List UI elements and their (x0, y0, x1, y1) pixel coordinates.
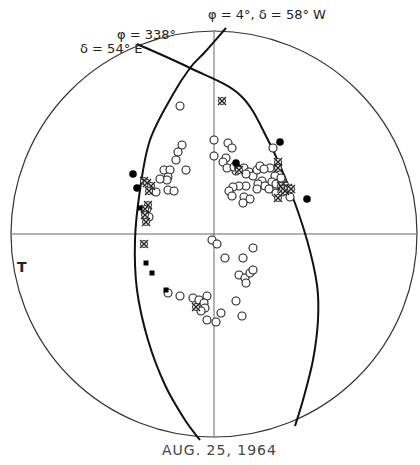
crossed-circle-marker (274, 164, 282, 172)
filled-circle-marker (129, 170, 137, 178)
stereonet-diagram (0, 0, 420, 465)
open-circle-marker (249, 266, 257, 274)
open-circle-marker (239, 254, 247, 262)
open-circle-marker (232, 297, 240, 305)
crossed-circle-marker (235, 166, 243, 174)
open-circle-marker (277, 174, 285, 182)
open-circle-marker (176, 102, 184, 110)
open-circle-marker (228, 144, 236, 152)
open-circle-marker (174, 148, 182, 156)
open-circle-marker (265, 185, 273, 193)
open-circle-marker (260, 165, 268, 173)
open-circle-marker (176, 292, 184, 300)
filled-square-marker (164, 288, 169, 293)
date-caption: AUG. 25, 1964 (162, 442, 277, 458)
open-circle-marker (242, 279, 250, 287)
open-circle-marker (242, 170, 250, 178)
open-circle-marker (238, 312, 246, 320)
open-circle-marker (156, 175, 164, 183)
great-circle-plane-2 (137, 44, 318, 426)
open-circle-marker (221, 254, 229, 262)
filled-square-marker (144, 261, 149, 266)
crossed-circle-marker (287, 185, 295, 193)
plane-2-dip-label: δ = 54° E (80, 41, 143, 56)
filled-circle-marker (303, 195, 311, 203)
open-circle-marker (253, 185, 261, 193)
open-circle-marker (249, 244, 257, 252)
open-circle-marker (212, 318, 220, 326)
plane-1-label: φ = 4°, δ = 58° W (208, 7, 326, 22)
crossed-circle-marker (192, 303, 200, 311)
open-circle-marker (213, 240, 221, 248)
filled-square-marker (138, 206, 143, 211)
plane-2-strike-label: φ = 338° (117, 27, 176, 42)
filled-square-marker (150, 271, 155, 276)
open-circle-marker (170, 187, 178, 195)
open-circle-marker (210, 136, 218, 144)
filled-circle-marker (133, 184, 141, 192)
open-circle-marker (210, 152, 218, 160)
open-circle-marker (172, 156, 180, 164)
crossed-circle-marker (140, 240, 148, 248)
open-circle-marker (182, 166, 190, 174)
t-axis-label: T (17, 259, 27, 275)
data-points (129, 97, 311, 326)
filled-circle-marker (276, 138, 284, 146)
crossed-circle-marker (142, 218, 150, 226)
open-circle-marker (228, 192, 236, 200)
crossed-circle-marker (218, 97, 226, 105)
open-circle-marker (239, 199, 247, 207)
open-circle-marker (269, 144, 277, 152)
open-circle-marker (203, 316, 211, 324)
crossed-circle-marker (274, 194, 282, 202)
crossed-circle-marker (145, 187, 153, 195)
open-circle-marker (217, 309, 225, 317)
